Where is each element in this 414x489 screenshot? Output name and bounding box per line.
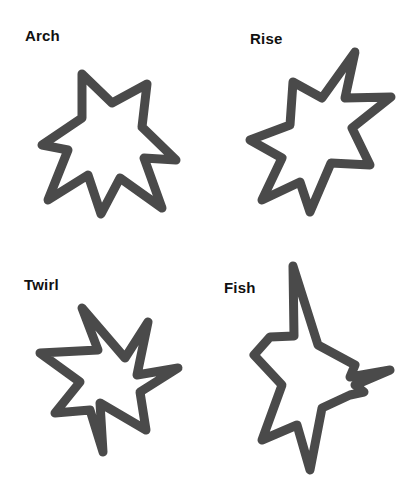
twirl-star-shape (40, 308, 178, 452)
arch-star-shape (42, 74, 176, 214)
shapes-canvas (0, 0, 414, 489)
rise-star-shape (250, 52, 391, 212)
fish-star-shape (254, 266, 390, 470)
